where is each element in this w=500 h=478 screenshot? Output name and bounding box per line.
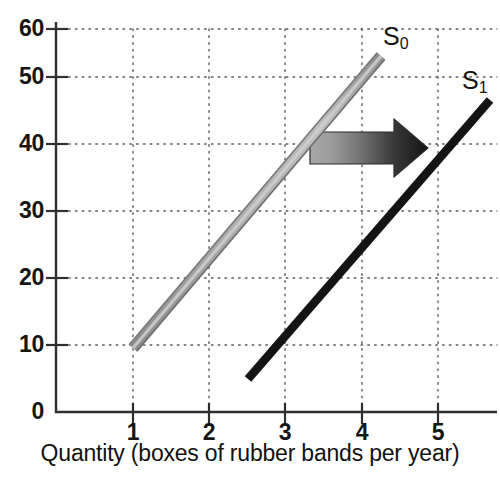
supply-shift-chart: 60 50 40 30 20 10 0 1 2 3 4 5 S0 S1 Quan… bbox=[0, 0, 500, 478]
y-tick-label-10: 10 bbox=[0, 331, 44, 358]
curve-label-s0-subscript: 0 bbox=[400, 35, 408, 52]
horizontal-gridlines bbox=[55, 29, 497, 412]
axis-lines bbox=[55, 22, 497, 413]
y-tick-label-60: 60 bbox=[0, 15, 44, 42]
curve-label-s0-letter: S bbox=[383, 22, 400, 50]
y-tick-label-0: 0 bbox=[0, 398, 44, 425]
supply-curve-s0 bbox=[129, 53, 385, 352]
chart-plot-area bbox=[0, 0, 500, 478]
curve-label-s1-letter: S bbox=[462, 66, 479, 94]
y-tick-label-30: 30 bbox=[0, 197, 44, 224]
curve-label-s1-subscript: 1 bbox=[479, 79, 487, 96]
curve-label-s0: S0 bbox=[383, 22, 408, 53]
y-tick-label-50: 50 bbox=[0, 63, 44, 90]
x-axis-title: Quantity (boxes of rubber bands per year… bbox=[0, 440, 500, 467]
y-tick-label-40: 40 bbox=[0, 130, 44, 157]
vertical-gridlines bbox=[133, 29, 438, 412]
y-tick-label-20: 20 bbox=[0, 264, 44, 291]
curve-label-s1: S1 bbox=[462, 66, 487, 97]
